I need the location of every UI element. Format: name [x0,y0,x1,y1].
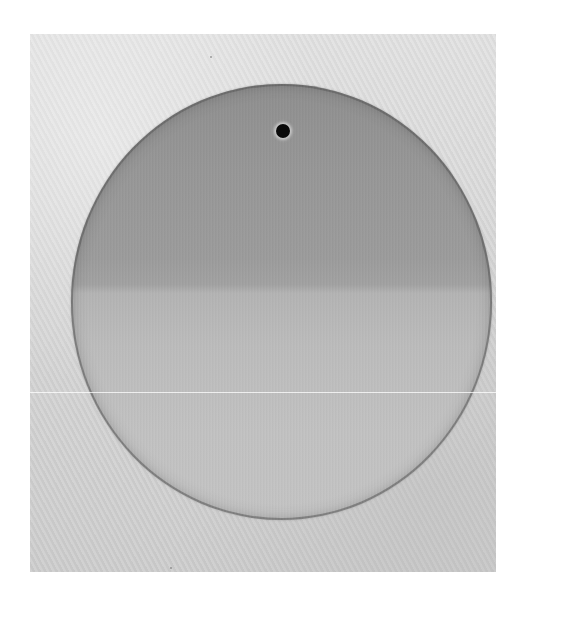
surface-speck [170,567,172,569]
pinhole [276,124,290,138]
surface-speck [210,56,212,58]
photo-surface [30,34,496,572]
scan-line-artifact [30,392,496,393]
circular-disc [71,84,492,520]
